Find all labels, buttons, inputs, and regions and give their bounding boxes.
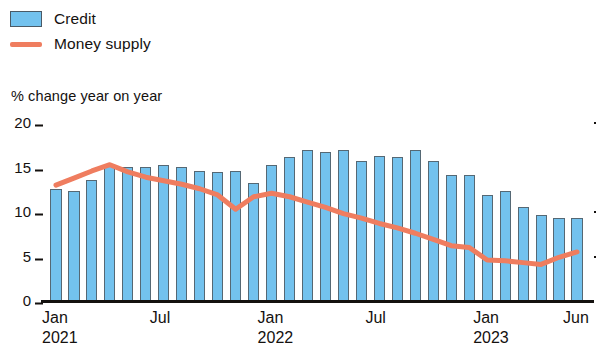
bar <box>392 157 403 300</box>
y-tick-20: 20 <box>14 114 47 131</box>
bar <box>374 156 385 300</box>
bar <box>248 183 259 300</box>
bar <box>284 157 295 300</box>
x-axis-labels: Jan2021JulJan2022JulJan2023Jun <box>47 308 586 356</box>
bar <box>230 171 241 300</box>
bar <box>104 164 115 300</box>
y-tick-15: 15 <box>14 158 47 175</box>
bar <box>266 165 277 300</box>
bar <box>518 207 529 300</box>
bar <box>553 218 564 300</box>
bar <box>410 150 421 300</box>
x-tick-label: Jan2023 <box>473 308 509 348</box>
bar <box>68 191 79 300</box>
x-tick-label: Jan2021 <box>42 308 78 348</box>
bar <box>86 180 97 300</box>
bar <box>212 172 223 300</box>
bar <box>356 161 367 300</box>
bar <box>500 191 511 300</box>
y-tick-10: 10 <box>14 203 47 220</box>
chart-legend: Credit Money supply <box>10 8 151 55</box>
x-tick-label: Jul <box>365 308 385 328</box>
plot-area: 05101520 <box>47 122 586 303</box>
bar <box>194 171 205 300</box>
x-tick-label: Jul <box>150 308 170 328</box>
x-axis-baseline <box>41 300 594 303</box>
legend-item-money-supply: Money supply <box>10 33 151 55</box>
y-tick-5: 5 <box>23 247 47 264</box>
money-supply-line-swatch-icon <box>10 42 42 47</box>
bar <box>464 175 475 300</box>
legend-label-money-supply: Money supply <box>54 36 151 52</box>
legend-item-credit: Credit <box>10 8 151 30</box>
x-tick-label: Jan2022 <box>258 308 294 348</box>
bar <box>482 195 493 300</box>
bar <box>536 215 547 300</box>
bar <box>158 165 169 300</box>
bar <box>140 167 151 301</box>
bar <box>338 150 349 300</box>
legend-label-credit: Credit <box>54 11 96 27</box>
credit-bar-swatch-icon <box>10 11 42 27</box>
bar <box>176 167 187 301</box>
x-tick-label: Jun <box>563 308 589 328</box>
y-axis-title: % change year on year <box>11 88 162 104</box>
bar-series-credit <box>47 122 586 300</box>
bar <box>320 152 331 300</box>
bar <box>446 175 457 300</box>
chart-root: Credit Money supply % change year on yea… <box>0 0 596 357</box>
bar <box>50 189 61 300</box>
bar <box>428 161 439 300</box>
bar <box>571 218 582 300</box>
bar <box>122 167 133 300</box>
bar <box>302 150 313 300</box>
